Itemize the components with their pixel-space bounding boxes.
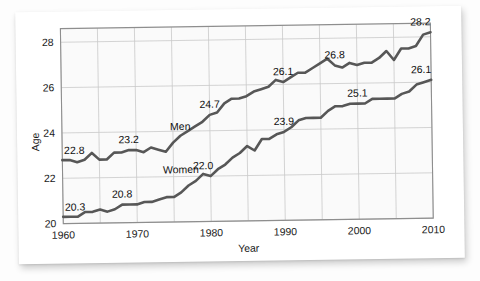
point-label: 25.1 <box>347 86 368 98</box>
y-tick-label: 28 <box>42 36 54 48</box>
x-tick-label: 2010 <box>422 223 446 235</box>
line-chart: 2022242628 196019701980199020002010 22.8… <box>15 6 465 265</box>
x-tick-label: 1990 <box>274 225 298 237</box>
chart-svg: 2022242628 196019701980199020002010 22.8… <box>15 6 465 265</box>
point-label: 23.9 <box>273 115 294 127</box>
point-label: 20.8 <box>112 187 133 199</box>
y-axis-tick-labels: 2022242628 <box>42 36 57 230</box>
screenshot-canvas: 2022242628 196019701980199020002010 22.8… <box>0 0 480 281</box>
x-axis-tick-labels: 196019701980199020002010 <box>52 223 446 241</box>
y-axis-title: Age <box>29 132 41 151</box>
point-label: 23.2 <box>118 133 139 145</box>
point-label: 26.1 <box>273 65 294 77</box>
point-label: 26.8 <box>324 48 345 60</box>
y-tick-label: 26 <box>42 81 54 93</box>
point-label: 26.1 <box>411 63 432 75</box>
series-label-men: Men <box>170 120 191 132</box>
point-label: 20.3 <box>65 200 86 212</box>
x-tick-label: 1980 <box>200 226 224 238</box>
y-tick-label: 20 <box>45 217 57 229</box>
x-tick-label: 1960 <box>52 228 76 240</box>
x-tick-label: 1970 <box>126 227 150 239</box>
x-axis-title: Year <box>238 242 260 254</box>
x-tick-label: 2000 <box>348 224 372 236</box>
y-tick-label: 24 <box>43 127 55 139</box>
point-label: 22.8 <box>64 144 85 156</box>
series-label-women: Women <box>163 163 199 176</box>
y-tick-label: 22 <box>44 172 56 184</box>
point-label: 28.2 <box>410 15 431 27</box>
chart-page-card: 2022242628 196019701980199020002010 22.8… <box>15 6 465 265</box>
point-label: 24.7 <box>199 98 220 110</box>
